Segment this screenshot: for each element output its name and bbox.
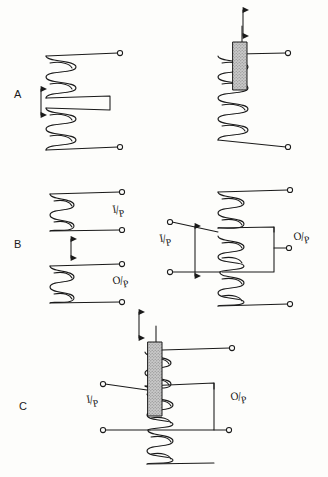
ferrite-core-A <box>233 42 247 90</box>
diagram-canvas: A B C I/P O/P I/P O/P I/P O/P <box>0 0 328 477</box>
panel-A-left <box>46 50 123 150</box>
panel-B-right <box>167 187 292 306</box>
ferrite-core-C <box>148 342 162 416</box>
panel-A-right <box>218 26 291 150</box>
port-label-op-c: O/P <box>230 389 248 408</box>
row-label-b: B <box>14 238 22 250</box>
port-label-op-b-left: O/P <box>112 273 130 292</box>
row-label-a: A <box>14 88 22 100</box>
panel-C <box>100 326 234 464</box>
port-label-op-b-right: O/P <box>293 229 311 248</box>
row-label-c: C <box>19 400 27 412</box>
